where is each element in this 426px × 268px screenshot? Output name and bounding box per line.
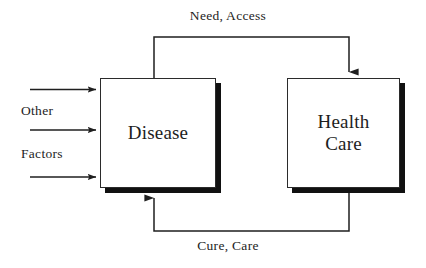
input-label-other: Other bbox=[21, 103, 53, 119]
edge-label-need-access: Need, Access bbox=[0, 8, 426, 24]
input-label-factors: Factors bbox=[21, 146, 63, 162]
edge-label-cure-care: Cure, Care bbox=[0, 238, 426, 254]
node-health-care-label-line1: Health bbox=[318, 111, 370, 132]
node-disease[interactable]: Disease bbox=[100, 78, 216, 188]
edge-disease-to-health-care bbox=[154, 37, 349, 78]
node-health-care[interactable]: HealthCare bbox=[287, 78, 400, 188]
edge-health-care-to-disease bbox=[154, 193, 349, 231]
node-disease-label: Disease bbox=[128, 122, 189, 144]
diagram-canvas: Disease HealthCare Need, Access Cure, Ca… bbox=[0, 0, 426, 268]
node-health-care-label-line2: Care bbox=[325, 133, 362, 154]
node-health-care-label: HealthCare bbox=[318, 111, 370, 155]
